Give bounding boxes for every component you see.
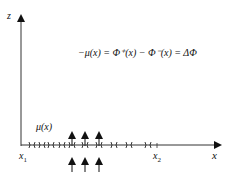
x2-subscript: 2: [157, 156, 161, 164]
flux-arrows-below: [72, 159, 99, 172]
diagram-canvas: [0, 0, 231, 181]
z-axis-label: z: [7, 10, 11, 21]
x1-label: x1: [19, 150, 27, 164]
x-axis-label: x: [212, 149, 217, 161]
mu-label: μ(x): [36, 121, 52, 132]
flux-equation: −μ(x) = Φ⁺(x) − Φ⁻(x) = ΔΦ: [78, 47, 197, 58]
flux-arrows-up: [72, 133, 99, 146]
x2-label: x2: [153, 150, 161, 164]
x1-subscript: 1: [23, 156, 27, 164]
